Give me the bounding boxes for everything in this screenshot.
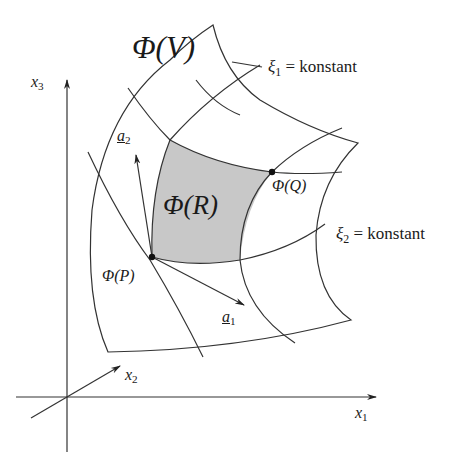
xi1-subscript: 1 <box>275 65 281 79</box>
vector-a1 <box>152 257 244 305</box>
vector-a2 <box>136 155 152 257</box>
point-p <box>149 254 155 260</box>
xi2-rest: = konstant <box>349 224 425 243</box>
label-a2: a2 <box>117 128 131 144</box>
label-a1: a1 <box>222 309 236 325</box>
x2-subscript: 2 <box>132 373 138 385</box>
label-x2: x2 <box>125 367 138 383</box>
phi-symbol: Φ <box>272 177 284 194</box>
xi1-curve-3 <box>240 128 342 343</box>
point-q <box>269 169 275 175</box>
phi-symbol: Φ <box>163 190 184 220</box>
x2-axis <box>31 366 120 418</box>
label-phi-r: Φ(R) <box>163 192 218 219</box>
label-phi-p: Φ(P) <box>102 268 135 284</box>
label-xi2-konstant: ξ2 = konstant <box>336 225 425 242</box>
phi-v-argument: (V) <box>156 30 196 65</box>
phi-symbol: Φ <box>102 267 114 284</box>
label-x1: x1 <box>355 405 368 421</box>
xi2-subscript: 2 <box>343 232 349 246</box>
xi1-label-leader <box>232 62 262 67</box>
label-phi-q: Φ(Q) <box>272 178 306 194</box>
xi1-curve-far <box>196 80 240 115</box>
xi2-curve-1 <box>128 88 342 174</box>
label-xi1-konstant: ξ1 = konstant <box>268 58 357 75</box>
x1-subscript: 1 <box>362 411 368 423</box>
a1-subscript: 1 <box>230 315 236 327</box>
a2-symbol: a <box>117 127 125 144</box>
xi1-rest: = konstant <box>281 57 357 76</box>
x3-subscript: 3 <box>38 80 44 92</box>
phi-symbol: Φ <box>132 30 156 65</box>
a1-symbol: a <box>222 308 230 325</box>
phi-q-argument: (Q) <box>284 177 306 194</box>
a2-subscript: 2 <box>125 134 131 146</box>
label-x3: x3 <box>31 74 44 90</box>
phi-p-argument: (P) <box>114 267 134 284</box>
label-phi-v: Φ(V) <box>132 32 195 63</box>
phi-r-argument: (R) <box>184 190 218 220</box>
